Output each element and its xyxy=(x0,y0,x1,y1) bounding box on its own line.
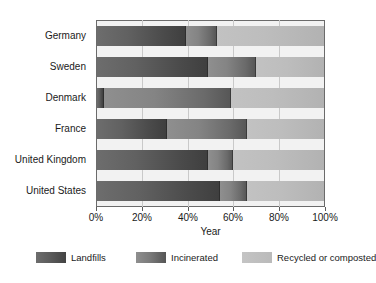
bar-row xyxy=(97,119,324,139)
x-axis-title: Year xyxy=(96,226,325,237)
legend-swatch-recycled xyxy=(242,252,272,263)
chart-legend: Landfills Incinerated Recycled or compos… xyxy=(0,250,373,266)
bar-segment-incinerated xyxy=(186,26,218,46)
bar-segment-recycled xyxy=(256,57,324,77)
y-axis-tick-label: United Kingdom xyxy=(0,154,86,166)
bar-segment-landfills xyxy=(97,57,208,77)
legend-item-incinerated: Incinerated xyxy=(136,250,218,264)
plot-area xyxy=(96,20,325,207)
bar-segment-incinerated xyxy=(220,181,247,201)
bar-segment-landfills xyxy=(97,119,167,139)
bar-segment-incinerated xyxy=(167,119,246,139)
x-axis-tick-label: 0% xyxy=(89,212,103,224)
x-axis-tick-label: 60% xyxy=(223,212,243,224)
legend-item-landfills: Landfills xyxy=(36,250,106,264)
x-axis-tick xyxy=(96,207,97,211)
x-axis-tick-label: 20% xyxy=(132,212,152,224)
bar-row xyxy=(97,150,324,170)
legend-label-recycled: Recycled or composted xyxy=(277,252,376,263)
y-axis-labels: Germany Sweden Denmark France United Kin… xyxy=(0,20,92,207)
bar-segment-recycled xyxy=(217,26,324,46)
x-axis-tick xyxy=(188,207,189,211)
bar-segment-landfills xyxy=(97,26,186,46)
bar-segment-incinerated xyxy=(208,150,233,170)
bar-segment-recycled xyxy=(247,181,324,201)
bar-segment-incinerated xyxy=(208,57,256,77)
bar-segment-recycled xyxy=(247,119,324,139)
x-axis-tick xyxy=(279,207,280,211)
legend-item-recycled: Recycled or composted xyxy=(242,250,376,264)
bar-rows xyxy=(97,21,324,206)
bar-row xyxy=(97,26,324,46)
y-axis-tick-label: Denmark xyxy=(0,92,86,104)
x-axis-tick-label: 80% xyxy=(269,212,289,224)
x-axis-tick xyxy=(142,207,143,211)
bar-row xyxy=(97,57,324,77)
bar-segment-landfills xyxy=(97,88,104,108)
x-axis-tick xyxy=(325,207,326,211)
bar-segment-recycled xyxy=(231,88,324,108)
legend-swatch-incinerated xyxy=(136,252,166,263)
bar-segment-recycled xyxy=(233,150,324,170)
x-axis-tick-label: 100% xyxy=(312,212,338,224)
legend-label-incinerated: Incinerated xyxy=(171,252,218,263)
x-axis-tick-labels: 0%20%40%60%80%100% xyxy=(0,212,373,226)
bar-segment-incinerated xyxy=(104,88,231,108)
bar-row xyxy=(97,88,324,108)
bar-row xyxy=(97,181,324,201)
y-axis-tick-label: Sweden xyxy=(0,61,86,73)
y-axis-tick-label: France xyxy=(0,123,86,135)
x-axis-tick xyxy=(233,207,234,211)
legend-swatch-landfills xyxy=(36,252,66,263)
bar-segment-landfills xyxy=(97,181,220,201)
bar-segment-landfills xyxy=(97,150,208,170)
legend-label-landfills: Landfills xyxy=(71,252,106,263)
y-axis-tick-label: United States xyxy=(0,185,86,197)
y-axis-tick-label: Germany xyxy=(0,30,86,42)
x-axis-tick-label: 40% xyxy=(178,212,198,224)
